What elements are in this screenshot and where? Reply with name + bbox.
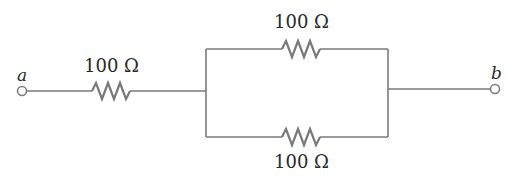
circuit-diagram: a 100 Ω 100 Ω 100 Ω b: [0, 0, 509, 183]
resistor-r1-label: 100 Ω: [84, 55, 139, 76]
resistor-r1: 100 Ω: [84, 55, 139, 99]
resistor-r3-icon: [282, 129, 320, 145]
resistor-r3: 100 Ω: [274, 129, 329, 172]
resistor-r2-label: 100 Ω: [274, 11, 329, 32]
terminal-b-node-icon: [491, 85, 500, 94]
resistor-r1-icon: [92, 83, 130, 99]
resistor-r3-label: 100 Ω: [274, 151, 329, 172]
resistor-r2-icon: [282, 41, 320, 57]
terminal-a: a: [17, 65, 27, 96]
terminal-b-label: b: [491, 63, 502, 83]
terminal-a-node-icon: [18, 87, 27, 96]
terminal-b: b: [491, 63, 502, 94]
terminal-a-label: a: [17, 65, 27, 85]
resistor-r2: 100 Ω: [274, 11, 329, 57]
